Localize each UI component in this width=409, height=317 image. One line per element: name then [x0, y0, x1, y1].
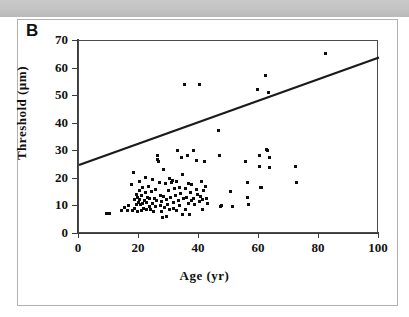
scatter-point [155, 199, 158, 202]
scatter-point [187, 202, 190, 205]
x-tick-label: 40 [178, 240, 218, 256]
scatter-point [168, 208, 171, 211]
scatter-point [138, 189, 141, 192]
scatter-point [246, 181, 249, 184]
scatter-point [184, 208, 187, 211]
y-tick-label: 30 [28, 142, 68, 158]
scatter-point [267, 91, 270, 94]
scatter-point [258, 154, 261, 157]
scatter-point [147, 185, 150, 188]
y-tick-label: 70 [28, 32, 68, 48]
plot-area [79, 41, 377, 232]
y-tick-mark [72, 233, 77, 234]
scatter-point [174, 194, 177, 197]
scatter-point [195, 188, 198, 191]
y-tick-mark [72, 123, 77, 124]
scatter-point [258, 165, 261, 168]
scatter-point [295, 181, 298, 184]
scatter-point [324, 52, 327, 55]
scatter-point [160, 200, 163, 203]
scatter-point [202, 189, 205, 192]
scatter-point [190, 183, 193, 186]
scatter-point [145, 201, 148, 204]
scatter-point [205, 197, 208, 200]
scatter-point [266, 149, 269, 152]
scatter-point [140, 194, 143, 197]
scatter-point [166, 203, 169, 206]
y-tick-mark [72, 68, 77, 69]
scatter-point [133, 198, 136, 201]
scatter-point [127, 204, 130, 207]
scatter-point [156, 154, 159, 157]
scatter-point [120, 209, 123, 212]
scatter-point [165, 198, 168, 201]
scatter-point [218, 154, 221, 157]
scatter-point [229, 190, 232, 193]
scatter-point [152, 210, 155, 213]
scatter-point [150, 190, 153, 193]
scatter-point [144, 176, 147, 179]
y-tick-label: 0 [28, 225, 68, 241]
y-tick-mark [72, 205, 77, 206]
scatter-point [138, 198, 141, 201]
scatter-point [161, 216, 164, 219]
y-tick-label: 20 [28, 170, 68, 186]
scatter-point [193, 203, 196, 206]
scan-band-text [150, 8, 280, 16]
scatter-point [200, 180, 203, 183]
scatter-point [231, 205, 234, 208]
scatter-point [151, 178, 154, 181]
scatter-point [172, 201, 175, 204]
y-tick-label: 40 [28, 115, 68, 131]
y-tick-mark [72, 40, 77, 41]
scatter-point [138, 180, 141, 183]
scatter-point [105, 212, 108, 215]
y-tick-mark [72, 95, 77, 96]
scatter-point [175, 180, 178, 183]
scatter-point [144, 191, 147, 194]
scatter-point [167, 189, 170, 192]
scatter-point [206, 202, 209, 205]
scatter-point [198, 83, 201, 86]
x-tick-label: 20 [118, 240, 158, 256]
scatter-point [164, 182, 167, 185]
scatter-point [145, 208, 148, 211]
scan-gray-band [0, 0, 409, 17]
scatter-point [169, 196, 172, 199]
scatter-point [201, 198, 204, 201]
scatter-point [246, 196, 249, 199]
scatter-point [185, 196, 188, 199]
scatter-point [108, 212, 111, 215]
scatter-point [294, 165, 297, 168]
scatter-point [203, 160, 206, 163]
y-tick-mark [72, 150, 77, 151]
scatter-point [260, 186, 263, 189]
scatter-point [204, 185, 207, 188]
scatter-point [136, 210, 139, 213]
x-tick-label: 80 [298, 240, 338, 256]
x-tick-label: 100 [358, 240, 398, 256]
scatter-point [195, 159, 198, 162]
scatter-point [264, 74, 267, 77]
scatter-point [178, 204, 181, 207]
scatter-point [148, 197, 151, 200]
scatter-point [183, 83, 186, 86]
scatter-point [256, 88, 259, 91]
x-axis-title: Age (yr) [0, 268, 409, 284]
scatter-point [157, 160, 160, 163]
scatter-point [180, 156, 183, 159]
scatter-point [171, 179, 174, 182]
scatter-point [130, 183, 133, 186]
scatter-point [158, 181, 161, 184]
plot-frame [78, 40, 378, 233]
scatter-point [188, 213, 191, 216]
scatter-point [192, 197, 195, 200]
scatter-point [181, 213, 184, 216]
scatter-point [163, 206, 166, 209]
scatter-point [154, 205, 157, 208]
figure-page: B Threshold (µm) Age (yr) Thr = 0.39*Age… [0, 0, 409, 317]
scatter-point [189, 191, 192, 194]
scatter-point [268, 156, 271, 159]
scatter-point [184, 187, 187, 190]
scatter-point [220, 204, 223, 207]
